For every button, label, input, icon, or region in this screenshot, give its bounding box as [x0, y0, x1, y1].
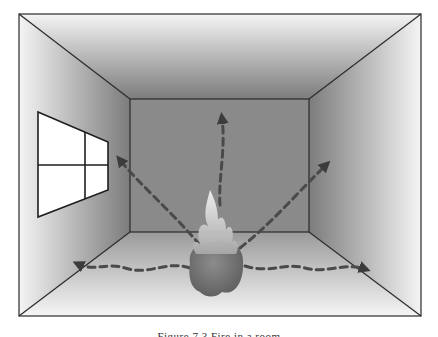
room-fire-diagram — [0, 0, 438, 337]
back-wall — [130, 99, 309, 232]
figure-caption: Figure 7.3 Fire in a room — [0, 329, 438, 337]
